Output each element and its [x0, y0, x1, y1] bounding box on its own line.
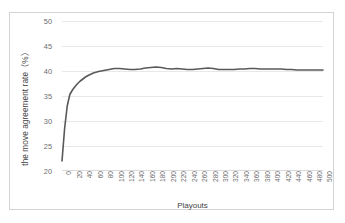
- x-tick-label: 300: [222, 171, 229, 182]
- x-tick-label: 260: [201, 171, 208, 182]
- x-tick-label: 60: [97, 171, 104, 178]
- chart-container: the move agreement rate（%） 5045403530252…: [9, 12, 334, 210]
- x-tick-label: 220: [180, 171, 187, 182]
- x-tick-label: 360: [253, 171, 260, 182]
- x-tick-label: 140: [138, 171, 145, 182]
- y-tick-label: 30: [30, 117, 52, 126]
- x-tick-label: 0: [65, 171, 72, 175]
- x-tick-label: 200: [170, 171, 177, 182]
- y-tick-label: 35: [30, 92, 52, 101]
- y-tick-label: 20: [30, 167, 52, 176]
- x-tick-label: 400: [274, 171, 281, 182]
- y-tick-label: 40: [30, 67, 52, 76]
- x-tick-label: 120: [128, 171, 135, 182]
- y-axis-tick-labels: 50454035302520: [30, 13, 52, 209]
- x-axis-title: Playouts: [62, 201, 323, 210]
- x-tick-label: 380: [264, 171, 271, 182]
- x-tick-label: 180: [159, 171, 166, 182]
- x-tick-label: 420: [285, 171, 292, 182]
- x-tick-label: 280: [212, 171, 219, 182]
- x-tick-label: 500: [326, 171, 333, 182]
- x-tick-label: 320: [232, 171, 239, 182]
- x-axis-tick-labels: 0204060801001201401601802002202402602803…: [62, 171, 323, 201]
- y-tick-label: 45: [30, 42, 52, 51]
- x-tick-label: 460: [306, 171, 313, 182]
- x-tick-label: 20: [76, 171, 83, 178]
- x-tick-label: 100: [118, 171, 125, 182]
- x-tick-label: 440: [295, 171, 302, 182]
- x-tick-label: 40: [86, 171, 93, 178]
- x-tick-label: 340: [243, 171, 250, 182]
- plot-area: [62, 21, 323, 171]
- x-tick-label: 240: [191, 171, 198, 182]
- x-tick-label: 480: [316, 171, 323, 182]
- series-line-move-agreement-rate: [62, 21, 323, 171]
- x-tick-label: 160: [149, 171, 156, 182]
- y-tick-label: 50: [30, 17, 52, 26]
- y-axis-title: the move agreement rate（%）: [18, 27, 30, 187]
- y-tick-label: 25: [30, 142, 52, 151]
- x-tick-label: 80: [107, 171, 114, 178]
